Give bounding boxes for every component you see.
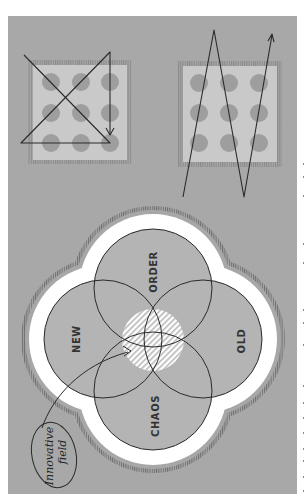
- innovative-center-hatch: [122, 309, 184, 371]
- edge-marks: [303, 163, 304, 492]
- label-chaos: CHAOS: [149, 395, 162, 437]
- label-old: OLD: [235, 329, 248, 354]
- dot-grid-panel-left: [21, 52, 132, 164]
- annotation-text-line2: field: [56, 440, 69, 465]
- annotation-text-line1: Innovative: [43, 426, 56, 486]
- label-new: NEW: [70, 325, 83, 353]
- innovation-diagram: ORDER NEW OLD CHAOS Innovative field: [0, 0, 305, 499]
- label-order: ORDER: [147, 251, 160, 293]
